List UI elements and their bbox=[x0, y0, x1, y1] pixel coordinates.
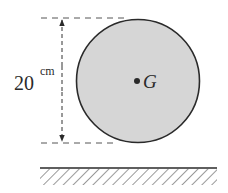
dimension-value: 20 bbox=[14, 72, 34, 94]
center-of-mass-dot bbox=[134, 78, 140, 84]
dimension-unit: cm bbox=[40, 64, 55, 78]
ground-hatching bbox=[40, 169, 217, 185]
center-of-mass-label: G bbox=[143, 71, 157, 92]
diagram-canvas: 20 cm G bbox=[0, 0, 228, 193]
